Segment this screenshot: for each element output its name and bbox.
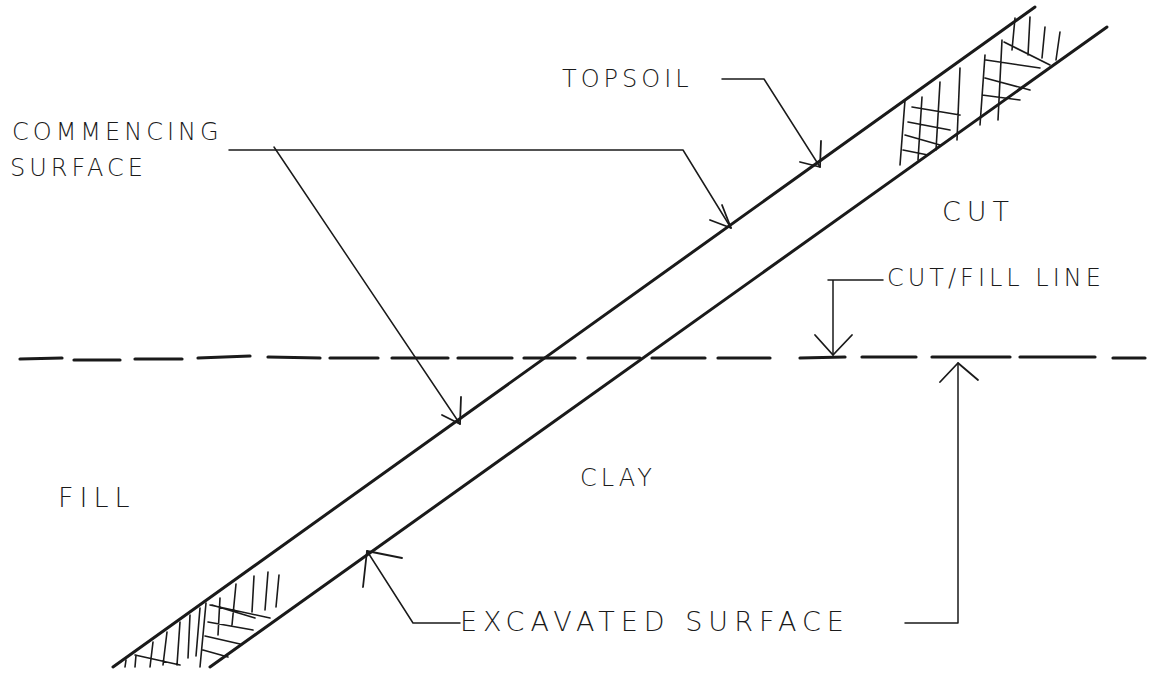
topsoil-hatch-upper	[900, 17, 1060, 165]
topsoil-label: TOPSOIL	[562, 67, 693, 91]
excavated-surface-line	[210, 27, 1107, 667]
topsoil-leader	[722, 79, 821, 167]
topsoil-hatch-lower	[125, 572, 279, 667]
clay-region-label: CLAY	[580, 466, 656, 490]
cut-fill-line-label: CUT/FILL LINE	[887, 266, 1105, 290]
excavated-surface-label: EXCAVATED SURFACE	[460, 608, 850, 635]
cut-fill-dashed-line	[20, 356, 1145, 360]
fill-region-label: FILL	[58, 484, 136, 511]
commencing-surface-label-line2: SURFACE	[10, 156, 147, 180]
commencing-surface-leader	[229, 147, 731, 424]
cut-fill-line-leader	[815, 280, 883, 355]
commencing-surface-label-line1: COMMENCING	[12, 120, 223, 144]
cut-region-label: CUT	[942, 198, 1015, 225]
cut-fill-section-diagram	[0, 0, 1158, 691]
commencing-surface-line	[113, 7, 1035, 667]
